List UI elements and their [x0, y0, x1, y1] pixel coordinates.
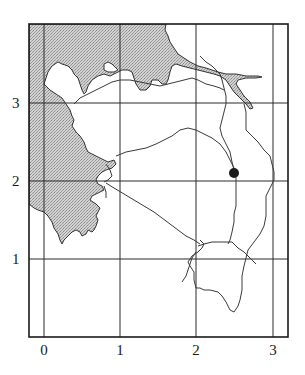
location-marker: [229, 168, 239, 178]
map-canvas: [0, 0, 305, 375]
x-tick-label-3: 3: [269, 343, 277, 358]
y-tick-label-1: 1: [12, 252, 20, 267]
map-figure: 0 1 2 3 3 2 1: [0, 0, 305, 375]
y-tick-label-2: 2: [12, 174, 20, 189]
y-tick-label-3: 3: [12, 96, 20, 111]
route-lines: [74, 56, 274, 312]
sea-area: [29, 24, 262, 244]
x-tick-label-1: 1: [116, 343, 124, 358]
x-tick-label-2: 2: [192, 343, 200, 358]
x-tick-label-0: 0: [40, 343, 48, 358]
